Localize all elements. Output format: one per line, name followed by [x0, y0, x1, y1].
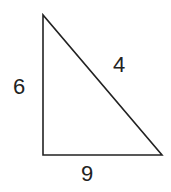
bottom-side-label: 9: [81, 161, 93, 186]
triangle-shape: [43, 15, 162, 155]
hypotenuse-label: 4: [113, 52, 125, 77]
left-side-label: 6: [13, 74, 25, 99]
triangle-diagram: 6 4 9: [0, 0, 171, 192]
